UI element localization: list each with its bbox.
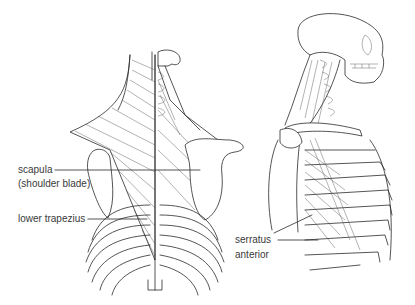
humerus [269,140,300,232]
anatomy-illustration [0,0,415,305]
lateral-view [269,14,392,270]
label-lower-trapezius: lower trapezius [18,212,85,226]
right-scapula [185,139,243,220]
label-shoulder-blade: (shoulder blade) [18,177,90,191]
posterior-view [70,50,243,295]
serratus-leader-1 [274,215,312,233]
left-scapula [87,149,112,218]
label-anterior: anterior [235,248,269,262]
skull-base [158,50,180,66]
label-scapula: scapula [18,163,52,177]
label-serratus: serratus [235,233,271,247]
skull [298,14,384,84]
left-ribs [86,205,150,295]
right-ribs [160,205,224,295]
serratus-anterior-fibers [305,138,360,250]
